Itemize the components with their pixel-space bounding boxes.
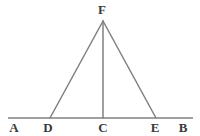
point-label-A: A: [5, 121, 23, 134]
point-label-C: C: [94, 121, 112, 134]
geometry-diagram-canvas: [0, 0, 200, 136]
segment-FD: [50, 21, 103, 118]
geometry-figure: A D C E B F: [0, 0, 200, 136]
point-label-B: B: [174, 121, 192, 134]
point-label-F: F: [93, 3, 111, 16]
point-label-E: E: [146, 121, 164, 134]
segment-FE: [103, 21, 156, 118]
point-label-D: D: [39, 121, 57, 134]
